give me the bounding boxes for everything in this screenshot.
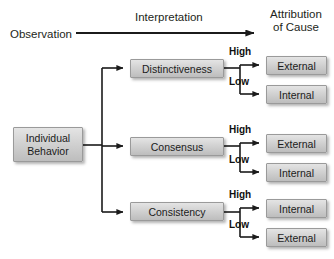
interpretation-label: Interpretation	[135, 11, 203, 24]
node-consistency[interactable]: Consistency	[130, 202, 224, 221]
branch-label-consistency-low: Low	[229, 219, 249, 230]
outcome-distinctiveness-low[interactable]: Internal	[266, 85, 327, 104]
outcome-consistency-high[interactable]: Internal	[266, 199, 327, 218]
observation-label: Observation	[10, 28, 72, 41]
outcome-distinctiveness-high[interactable]: External	[266, 56, 327, 75]
branch-label-consensus-low: Low	[229, 154, 249, 165]
branch-label-consistency-high: High	[229, 189, 251, 200]
outcome-consensus-high[interactable]: External	[266, 134, 327, 153]
branch-label-distinctiveness-low: Low	[229, 76, 249, 87]
node-individual-behavior[interactable]: Individual Behavior	[13, 127, 83, 162]
outcome-consensus-low[interactable]: Internal	[266, 163, 327, 182]
attribution-diagram: Observation Interpretation Attribution o…	[0, 0, 334, 259]
branch-label-consensus-high: High	[229, 124, 251, 135]
outcome-consistency-low[interactable]: External	[266, 228, 327, 247]
branch-label-distinctiveness-high: High	[229, 46, 251, 57]
attribution-of-cause-label: Attribution of Cause	[263, 8, 329, 34]
node-consensus[interactable]: Consensus	[130, 137, 224, 156]
node-distinctiveness[interactable]: Distinctiveness	[130, 59, 224, 78]
